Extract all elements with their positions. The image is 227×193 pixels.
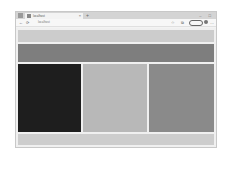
profile-button[interactable] (189, 20, 203, 26)
title-bar: localhost × + – □ (16, 12, 216, 19)
back-icon[interactable]: ← (19, 19, 23, 26)
favicon-icon (27, 14, 31, 18)
new-tab-icon[interactable]: + (86, 12, 89, 19)
page-header (18, 30, 214, 42)
window-controls[interactable]: – □ (199, 12, 214, 19)
refresh-icon[interactable]: ⟳ (26, 19, 29, 26)
page-footer (18, 134, 214, 145)
caption-text (45, 185, 185, 193)
url-input[interactable]: localhost (38, 20, 158, 25)
column-right (149, 64, 214, 132)
browser-window: localhost × + – □ ← ⟳ localhost ☆ ⧉ … (15, 11, 217, 148)
column-left (18, 64, 81, 132)
menu-icon[interactable]: … (210, 19, 214, 26)
avatar-icon[interactable] (204, 20, 208, 24)
extensions-icon[interactable]: ⧉ (181, 19, 184, 26)
column-middle (83, 64, 147, 132)
page-nav-band (18, 44, 214, 62)
favorite-star-icon[interactable]: ☆ (171, 19, 175, 26)
page-content (16, 28, 216, 147)
window-icon (18, 13, 23, 18)
address-bar-row: ← ⟳ localhost ☆ ⧉ … (16, 19, 216, 27)
